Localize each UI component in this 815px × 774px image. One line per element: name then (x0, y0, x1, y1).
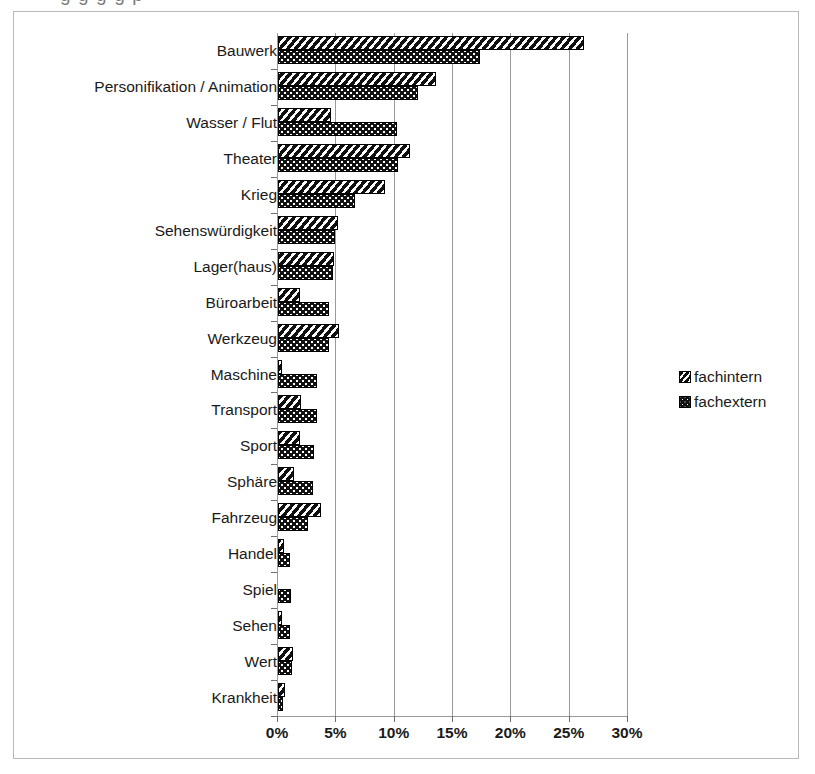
clipped-heading-fragment: g g g g p (0, 0, 815, 10)
gridline-20% (510, 33, 511, 716)
bar-fachintern-krieg (278, 180, 385, 194)
category-label-broarbeit: Büroarbeit (205, 294, 277, 312)
bar-fachextern-theater (278, 158, 398, 172)
bar-fachextern-transport (278, 409, 317, 423)
category-label-sehenswrdigkeit: Sehenswürdigkeit (155, 222, 277, 240)
bar-fachintern-handel (278, 539, 284, 553)
bar-fachintern-sport (278, 431, 300, 445)
x-tick-label-30%: 30% (611, 724, 642, 742)
bar-fachintern-fahrzeug (278, 503, 321, 517)
x-tick-label-25%: 25% (553, 724, 584, 742)
legend-swatch-hatch-icon (679, 371, 691, 383)
bar-fachextern-lagerhaus (278, 266, 333, 280)
category-tick (271, 464, 277, 465)
legend-label-fachintern: fachintern (694, 364, 762, 389)
category-tick (271, 536, 277, 537)
x-tick-label-5%: 5% (324, 724, 346, 742)
category-tick (271, 69, 277, 70)
category-label-maschine: Maschine (211, 366, 277, 384)
category-label-bauwerk: Bauwerk (217, 42, 277, 60)
category-label-theater: Theater (224, 150, 277, 168)
bar-fachintern-sehenswrdigkeit (278, 216, 338, 230)
category-tick (271, 321, 277, 322)
category-tick (271, 177, 277, 178)
x-tick-30% (627, 716, 628, 722)
x-axis-tick-labels: 0%5%10%15%20%25%30% (277, 716, 627, 756)
legend-swatch-dotted-icon (679, 396, 691, 408)
bar-fachextern-broarbeit (278, 302, 329, 316)
x-tick-25% (569, 716, 570, 722)
category-tick (271, 608, 277, 609)
bar-fachintern-transport (278, 395, 301, 409)
bar-fachextern-sport (278, 445, 314, 459)
category-tick (271, 141, 277, 142)
legend-label-fachextern: fachextern (694, 389, 766, 414)
category-tick (271, 572, 277, 573)
category-label-lagerhaus: Lager(haus) (193, 258, 277, 276)
gridline-30% (627, 33, 628, 716)
legend-item-fachextern: fachextern (679, 389, 766, 414)
category-tick (271, 644, 277, 645)
bar-fachextern-krieg (278, 194, 355, 208)
category-label-transport: Transport (211, 401, 277, 419)
category-label-krankheit: Krankheit (212, 689, 277, 707)
category-tick (271, 500, 277, 501)
category-label-wasserflut: Wasser / Flut (186, 114, 277, 132)
x-tick-20% (510, 716, 511, 722)
category-label-werkzeug: Werkzeug (208, 330, 278, 348)
gridline-15% (452, 33, 453, 716)
bar-fachintern-theater (278, 144, 410, 158)
bar-fachextern-wasserflut (278, 122, 397, 136)
bar-fachextern-werkzeug (278, 338, 329, 352)
x-tick-label-0%: 0% (266, 724, 288, 742)
bar-fachextern-personifikationanimation (278, 86, 418, 100)
x-tick-15% (452, 716, 453, 722)
category-label-sport: Sport (240, 437, 277, 455)
chart-legend: fachintern fachextern (679, 364, 766, 414)
bar-fachextern-handel (278, 553, 290, 567)
category-label-handel: Handel (228, 545, 277, 563)
bar-fachextern-sehen (278, 625, 290, 639)
bar-fachextern-maschine (278, 374, 317, 388)
bar-fachintern-personifikationanimation (278, 72, 436, 86)
x-tick-10% (394, 716, 395, 722)
x-tick-label-10%: 10% (378, 724, 409, 742)
chart-frame: BauwerkPersonifikation / AnimationWasser… (13, 11, 799, 759)
bar-fachextern-fahrzeug (278, 517, 308, 531)
category-label-fahrzeug: Fahrzeug (212, 509, 277, 527)
bar-fachintern-maschine (278, 360, 282, 374)
category-label-sehen: Sehen (232, 617, 277, 635)
bar-fachintern-bauwerk (278, 36, 584, 50)
category-tick (271, 428, 277, 429)
bar-fachextern-sphre (278, 481, 313, 495)
x-tick-label-15%: 15% (436, 724, 467, 742)
bar-fachextern-spiel (278, 589, 291, 603)
bar-fachintern-lagerhaus (278, 252, 334, 266)
clipped-heading-text: g g g g p (60, 0, 144, 6)
bar-fachintern-broarbeit (278, 288, 300, 302)
category-label-krieg: Krieg (241, 186, 277, 204)
x-tick-5% (335, 716, 336, 722)
category-tick (271, 285, 277, 286)
category-label-sphre: Sphäre (227, 473, 277, 491)
x-tick-label-20%: 20% (495, 724, 526, 742)
bar-fachintern-wert (278, 647, 293, 661)
category-label-wert: Wert (245, 653, 277, 671)
bar-fachintern-wasserflut (278, 108, 331, 122)
gridline-25% (569, 33, 570, 716)
bar-fachintern-werkzeug (278, 324, 339, 338)
category-tick (271, 105, 277, 106)
bar-fachintern-sehen (278, 611, 282, 625)
bar-fachintern-sphre (278, 467, 294, 481)
x-tick-0% (277, 716, 278, 722)
bar-fachextern-sehenswrdigkeit (278, 230, 335, 244)
plot-area (277, 33, 627, 716)
category-label-spiel: Spiel (243, 581, 277, 599)
legend-item-fachintern: fachintern (679, 364, 766, 389)
category-tick (271, 213, 277, 214)
category-tick (271, 392, 277, 393)
category-label-personifikationanimation: Personifikation / Animation (94, 78, 277, 96)
bar-fachintern-krankheit (278, 683, 285, 697)
bar-fachextern-wert (278, 661, 292, 675)
category-tick (271, 249, 277, 250)
